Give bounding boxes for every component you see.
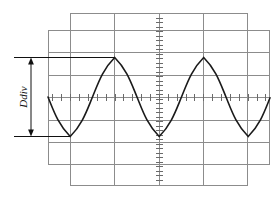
ddiv-label: Ddiv	[17, 86, 29, 109]
scope-canvas: Ddiv	[0, 0, 278, 200]
dimension-arrowhead-down	[28, 130, 34, 137]
dimension-arrowhead-up	[28, 58, 34, 65]
oscilloscope-figure: Ddiv	[0, 0, 278, 200]
